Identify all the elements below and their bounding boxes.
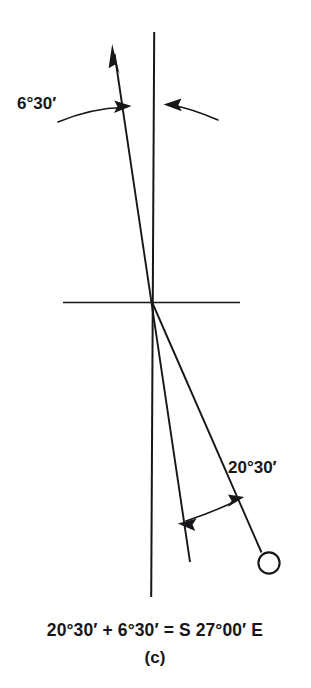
figure-sublabel: (c): [145, 648, 166, 667]
declination-left-arc: [58, 108, 124, 123]
bearing-angle-arc: [186, 501, 236, 521]
bearing-line: [152, 302, 262, 553]
bearing-diagram-figure: 6°30′ 20°30′ 20°30′ + 6°30′ = S 27°00′ E…: [0, 0, 311, 688]
declination-right-arrowhead: [164, 99, 182, 112]
figure-caption: 20°30′ + 6°30′ = S 27°00′ E: [47, 620, 263, 640]
magnetic-north-arrowhead: [109, 44, 120, 74]
surveying-bearing-diagram: 6°30′ 20°30′ 20°30′ + 6°30′ = S 27°00′ E…: [0, 0, 311, 688]
station-marker-circle: [258, 552, 279, 573]
bearing-angle-label: 20°30′: [228, 458, 277, 477]
declination-angle-label: 6°30′: [17, 94, 56, 113]
